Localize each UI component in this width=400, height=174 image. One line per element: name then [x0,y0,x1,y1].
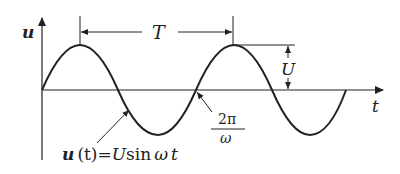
two-pi-numerator: 2π [218,111,236,127]
omega-denominator: ω [220,130,232,146]
sine-wave-diagram: T U u t 2π ω u(t)=Usinωt [0,0,400,174]
period-label: T [152,21,166,43]
amplitude-label: U [281,59,296,79]
equation-pointer [97,110,129,143]
y-axis-label: u [22,22,34,42]
equation: u(t)=Usinωt [62,144,178,164]
zero-crossing-pointer [197,92,212,112]
x-axis-label: t [372,96,379,116]
